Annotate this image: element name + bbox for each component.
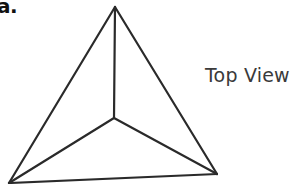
inner-spokes	[9, 7, 217, 183]
figure-container: a. Top View	[0, 0, 307, 184]
tetrahedron-top-view-diagram	[0, 0, 307, 184]
inner-spoke-right-to-center	[114, 118, 217, 174]
part-label: a.	[0, 0, 17, 16]
outer-edge-apex-to-left	[9, 7, 115, 183]
view-caption: Top View	[205, 64, 290, 87]
inner-spoke-left-to-center	[9, 118, 114, 183]
outer-edge-left-to-right	[9, 174, 217, 183]
inner-spoke-apex-to-center	[114, 7, 115, 118]
outer-edge-apex-to-right	[115, 7, 217, 174]
